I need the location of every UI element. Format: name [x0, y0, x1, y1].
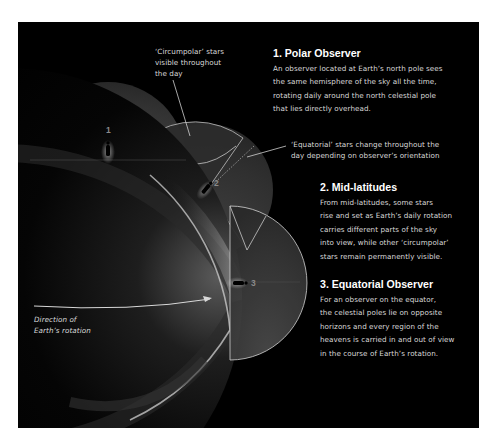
callout-line: ‘Circumpolar’ stars [155, 47, 224, 58]
body-line: stars remain permanently visible. [320, 250, 452, 263]
body-line: carries different parts of the sky [320, 223, 452, 236]
section-heading: 2. Mid-latitudes [320, 181, 397, 194]
body-line: the same hemisphere of the sky all the t… [273, 75, 443, 88]
diagram-panel: 1 2 3 ‘Circumpolar’ stars visible throug… [18, 22, 479, 428]
observer-number-3: 3 [251, 278, 256, 288]
observer-1 [101, 140, 115, 164]
body-line: From mid-latitudes, some stars [320, 196, 452, 209]
rotation-callout: Direction of Earth’s rotation [34, 315, 91, 337]
body-line: the celestial poles lie on opposite [320, 306, 454, 319]
section-body: For an observer on the equator, the cele… [320, 293, 454, 360]
body-line: in the course of Earth’s rotation. [320, 347, 454, 360]
observer-3 [226, 277, 248, 289]
body-line: that lies directly overhead. [273, 102, 443, 115]
body-line: rotating daily around the north celestia… [273, 89, 443, 102]
body-line: heavens is carried in and out of view [320, 333, 454, 346]
section-body: An observer located at Earth’s north pol… [273, 62, 443, 116]
body-line: For an observer on the equator, [320, 293, 454, 306]
body-line: horizons and every region of the [320, 320, 454, 333]
callout-line: the day [155, 69, 224, 80]
section-body: From mid-latitudes, some stars rise and … [320, 196, 452, 263]
section-heading: 1. Polar Observer [273, 47, 361, 60]
circumpolar-callout: ‘Circumpolar’ stars visible throughout t… [155, 47, 224, 79]
callout-line: Direction of [34, 315, 91, 326]
callout-line: visible throughout [155, 58, 224, 69]
callout-line: ‘Equatorial’ stars change throughout the [291, 140, 440, 151]
callout-line: day depending on observer’s orientation [291, 151, 440, 162]
equatorial-callout: ‘Equatorial’ stars change throughout the… [291, 140, 440, 162]
body-line: rise and set as Earth’s daily rotation [320, 209, 452, 222]
section-heading: 3. Equatorial Observer [320, 278, 433, 291]
callout-line: Earth’s rotation [34, 326, 91, 337]
body-line: An observer located at Earth’s north pol… [273, 62, 443, 75]
observer-number-1: 1 [106, 125, 111, 135]
body-line: into view, while other ‘circumpolar’ [320, 236, 452, 249]
observer-number-2: 2 [214, 178, 219, 188]
earth-globe [18, 68, 242, 428]
